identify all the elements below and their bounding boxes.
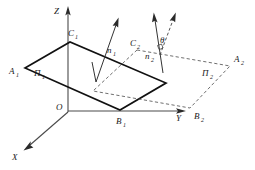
normal-n1-label: n 1 [107, 45, 116, 57]
z-axis-label: Z [54, 6, 60, 16]
theta-angle-label: θ [160, 35, 165, 45]
origin-label: O [56, 102, 63, 112]
geometry-figure: Z Y X O A 1 B 1 C 1 A 2 B 2 C 2 Π 1 Π 2 [0, 0, 255, 170]
vertex-a2-letter: A [233, 54, 240, 64]
vertex-c1-letter: C [68, 28, 75, 38]
plane-2-label: Π 2 [201, 68, 213, 80]
x-axis-line [30, 112, 68, 145]
normal-vector-n1 [92, 18, 119, 83]
plane-2-subscript: 2 [210, 74, 213, 80]
vertex-c2-letter: C [130, 38, 137, 48]
vertex-a1-subscript: 1 [16, 72, 19, 78]
normal-n2-label: n 2 [145, 51, 154, 63]
vertex-a2-label: A 2 [233, 54, 244, 66]
vertex-c2-label: C 2 [130, 38, 140, 50]
plane-2-letter: Π [201, 68, 209, 78]
normal-n2-letter: n [145, 51, 150, 61]
vertex-b2-letter: B [194, 111, 200, 121]
n2-shaft [155, 20, 163, 73]
vertex-c1-label: C 1 [68, 28, 78, 40]
vertex-c2-subscript: 2 [137, 44, 140, 50]
vertex-a1-label: A 1 [8, 66, 19, 78]
normal-n1-letter: n [107, 45, 112, 55]
vertex-a2-subscript: 2 [241, 60, 244, 66]
plane-1-letter: Π [33, 68, 41, 78]
vertex-b2-subscript: 2 [201, 117, 204, 123]
vertex-a1-letter: A [8, 66, 15, 76]
vertex-c1-subscript: 1 [75, 34, 78, 40]
vertex-b1-letter: B [116, 116, 122, 126]
vertex-b2-label: B 2 [194, 111, 204, 123]
vertex-b1-label: B 1 [116, 116, 126, 128]
vertex-b1-subscript: 1 [123, 122, 126, 128]
plane-1-subscript: 1 [42, 74, 45, 80]
plane-1-label: Π 1 [33, 68, 45, 80]
n1-foot-line [92, 62, 96, 82]
y-axis-label: Y [176, 113, 182, 123]
x-axis-arrowhead [24, 141, 34, 150]
normal-n1-subscript: 1 [113, 51, 116, 57]
x-axis-label: X [11, 152, 18, 162]
normal-n2-subscript: 2 [151, 57, 154, 63]
